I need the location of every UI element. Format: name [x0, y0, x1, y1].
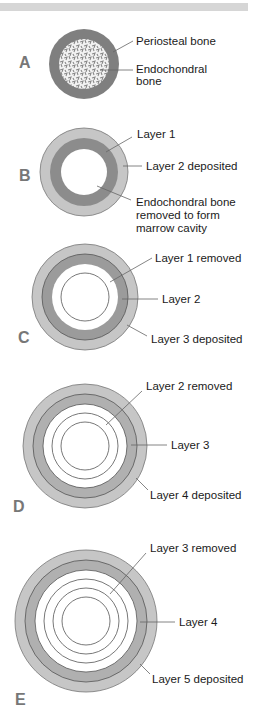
label-layer-2-deposited: Layer 2 deposited — [146, 160, 237, 172]
bone-growth-diagram: A Periosteal bone Endochondral bone B La… — [0, 0, 257, 717]
endochondral-bone-core — [59, 39, 109, 89]
panel-e: E Layer 3 removed Layer 4 Layer 5 deposi… — [15, 542, 243, 708]
label-endochondral-removed-3: marrow cavity — [136, 222, 207, 234]
leader-line — [136, 478, 148, 490]
label-layer-3: Layer 3 — [171, 439, 209, 451]
marrow-cavity — [35, 570, 137, 672]
label-layer-4: Layer 4 — [179, 616, 218, 628]
label-bone: bone — [136, 75, 162, 87]
label-periosteal-bone: Periosteal bone — [136, 35, 216, 47]
label-layer-3-deposited: Layer 3 deposited — [151, 333, 242, 345]
label-layer-1: Layer 1 — [137, 128, 175, 140]
label-layer-1-removed: Layer 1 removed — [155, 252, 241, 264]
panel-letter: E — [15, 691, 26, 708]
label-layer-2-removed: Layer 2 removed — [146, 380, 232, 392]
panel-b: B Layer 1 Layer 2 deposited Endochondral… — [19, 128, 237, 234]
leader-line — [127, 325, 147, 336]
panel-a: A Periosteal bone Endochondral bone — [19, 29, 216, 99]
marrow-cavity — [52, 264, 118, 330]
panel-c: C Layer 1 removed Layer 2 Layer 3 deposi… — [18, 244, 242, 350]
panel-letter: C — [18, 329, 30, 346]
label-layer-2: Layer 2 — [162, 293, 200, 305]
label-layer-5-deposited: Layer 5 deposited — [152, 673, 243, 685]
label-layer-4-deposited: Layer 4 deposited — [150, 489, 241, 501]
label-layer-3-removed: Layer 3 removed — [150, 542, 236, 554]
label-endochondral-removed-1: Endochondral bone — [136, 196, 236, 208]
leader-line — [140, 664, 150, 674]
panel-letter: B — [19, 167, 31, 184]
marrow-cavity — [61, 149, 107, 195]
panel-d: D Layer 2 removed Layer 3 Layer 4 deposi… — [13, 380, 241, 515]
label-endochondral: Endochondral — [136, 63, 207, 75]
label-endochondral-removed-2: removed to form — [136, 209, 220, 221]
panel-letter: A — [19, 54, 31, 71]
leader-line — [113, 41, 133, 52]
panel-letter: D — [13, 498, 25, 515]
